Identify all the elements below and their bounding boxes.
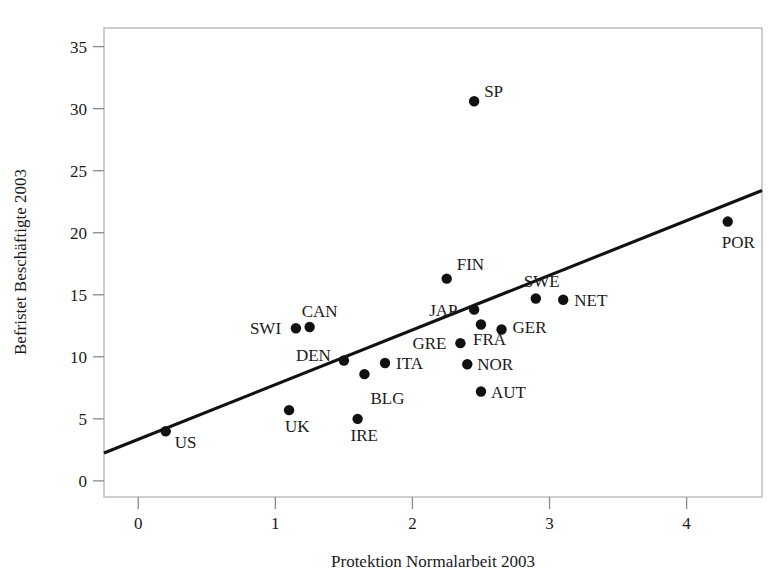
data-points-group: USUKIREBLGAUTNORITADENGREGERFRASWICANJAP… [160, 82, 755, 452]
point-label-aut: AUT [491, 383, 527, 402]
point-label-fin: FIN [457, 255, 484, 274]
data-point-fra [476, 319, 486, 329]
y-tick-label: 15 [70, 286, 87, 305]
y-tick-label: 25 [70, 162, 87, 181]
data-point-uk [284, 405, 294, 415]
point-label-can: CAN [302, 302, 338, 321]
point-label-den: DEN [296, 346, 331, 365]
point-label-blg: BLG [370, 389, 404, 408]
point-label-fra: FRA [473, 330, 507, 349]
point-label-ger: GER [513, 318, 548, 337]
point-label-swe: SWE [524, 272, 560, 291]
point-label-sp: SP [484, 82, 503, 101]
y-tick-label: 35 [70, 38, 87, 57]
y-axis-ticks: 05101520253035 [70, 38, 104, 491]
data-point-gre [455, 338, 465, 348]
y-axis-title: Befristet Beschäftigte 2003 [11, 169, 30, 355]
data-point-den [339, 355, 349, 365]
x-tick-label: 3 [545, 514, 554, 533]
data-point-ire [352, 414, 362, 424]
point-label-nor: NOR [477, 355, 514, 374]
data-point-blg [359, 369, 369, 379]
data-point-net [558, 295, 568, 305]
data-point-nor [462, 359, 472, 369]
x-axis-ticks: 01234 [134, 497, 691, 533]
y-tick-label: 20 [70, 224, 87, 243]
x-axis-title: Protektion Normalarbeit 2003 [331, 552, 535, 571]
y-tick-label: 10 [70, 348, 87, 367]
point-label-uk: UK [285, 417, 310, 436]
data-point-sp [469, 96, 479, 106]
point-label-us: US [175, 433, 197, 452]
chart-canvas: 05101520253035 01234 USUKIREBLGAUTNORITA… [0, 0, 784, 585]
point-label-gre: GRE [412, 334, 446, 353]
data-point-fin [442, 273, 452, 283]
data-point-ita [380, 358, 390, 368]
data-point-por [723, 216, 733, 226]
data-point-aut [476, 386, 486, 396]
scatter-chart-figure: 05101520253035 01234 USUKIREBLGAUTNORITA… [0, 0, 784, 585]
plot-frame [104, 28, 762, 497]
point-label-jap: JAP [429, 301, 457, 320]
point-label-por: POR [722, 233, 756, 252]
y-tick-label: 0 [79, 472, 88, 491]
data-point-swi [291, 323, 301, 333]
data-point-can [304, 322, 314, 332]
y-tick-label: 30 [70, 100, 87, 119]
trendline [104, 191, 762, 453]
data-point-swe [531, 293, 541, 303]
x-tick-label: 1 [271, 514, 280, 533]
x-tick-label: 2 [408, 514, 417, 533]
point-label-ire: IRE [351, 426, 378, 445]
point-label-ita: ITA [396, 354, 424, 373]
x-tick-label: 4 [682, 514, 691, 533]
point-label-net: NET [574, 291, 608, 310]
data-point-us [160, 426, 170, 436]
data-point-jap [469, 304, 479, 314]
y-tick-label: 5 [79, 410, 88, 429]
x-tick-label: 0 [134, 514, 143, 533]
point-label-swi: SWI [250, 319, 282, 338]
